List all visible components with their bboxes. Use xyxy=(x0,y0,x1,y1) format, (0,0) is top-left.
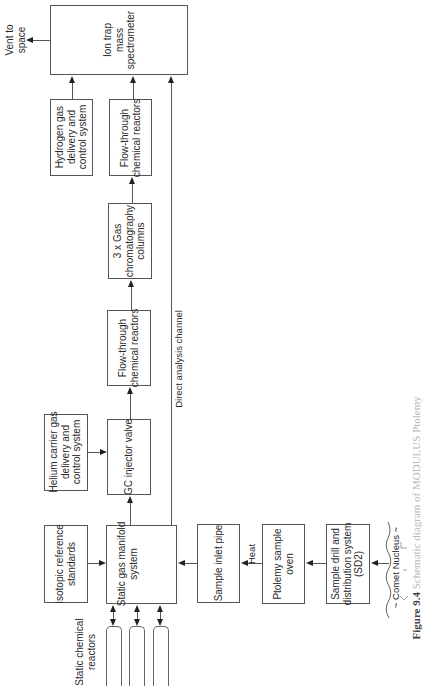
inlet-arrow-icon xyxy=(178,560,185,566)
heat-label: Heat xyxy=(246,542,258,566)
flow2-gc-arrow-icon xyxy=(128,280,134,287)
hydrogen-arrow-icon xyxy=(69,76,75,83)
helium-arrow-icon xyxy=(100,449,107,455)
static-reactor-1 xyxy=(106,626,122,686)
static-reactors-label: Static chemical reactors xyxy=(74,614,98,690)
figure-caption: Figure 9.4 Schematic diagram of MODULUS … xyxy=(411,300,424,640)
gc-flow1-arrow-icon xyxy=(129,177,135,184)
gc-columns-label: 3 x Gas chromatography columns xyxy=(112,196,148,286)
direct-line xyxy=(171,81,172,525)
direct-label: Direct analysis channel xyxy=(173,304,185,414)
drill-line xyxy=(312,563,326,564)
drill-label: Sample drill and distribution system (SD… xyxy=(330,514,366,614)
manifold-label: Static gas manifold system xyxy=(116,519,140,609)
hydrogen-line xyxy=(72,81,73,99)
hydrogen-label: Hydrogen gas delivery and control system xyxy=(54,97,90,177)
flow2-gc-line xyxy=(131,286,132,310)
inlet-line xyxy=(184,563,197,564)
caption-text: Schematic diagram of MODULUS Ptolemy xyxy=(410,396,422,592)
helium-label: Helium carrier gas delivery and control … xyxy=(48,407,84,497)
flow1-line xyxy=(133,81,134,99)
reactor-1-up-arrow-icon xyxy=(110,605,116,612)
isotopic-arrow-icon xyxy=(99,560,106,566)
direct-arrow-icon xyxy=(168,76,174,83)
comet-arrow-icon xyxy=(371,560,378,566)
reactor-2-up-arrow-icon xyxy=(134,605,140,612)
static-reactor-3 xyxy=(153,626,169,686)
injector-flow2-arrow-icon xyxy=(127,387,133,394)
static-reactor-2 xyxy=(129,626,145,686)
flow-through-1-label: Flow-through chemical reactors xyxy=(119,98,143,178)
gc-injector-label: GC injector valve xyxy=(123,412,135,502)
reactor-3-up-arrow-icon xyxy=(157,605,163,612)
manifold-injector-arrow-icon xyxy=(127,496,133,503)
inlet-pipe-label: Sample inlet pipe xyxy=(213,518,225,608)
reactor-2-down-arrow-icon xyxy=(134,619,140,626)
reactor-3-down-arrow-icon xyxy=(157,619,163,626)
injector-flow2-line xyxy=(130,393,131,419)
reactor-1-down-arrow-icon xyxy=(110,619,116,626)
vent-label: Vent to space xyxy=(4,22,28,58)
flow-through-2-label: Flow-through chemical reactors xyxy=(117,308,141,388)
caption-figure-number: Figure 9.4 xyxy=(410,592,422,639)
vent-arrow-icon xyxy=(26,37,33,43)
drill-arrow-icon xyxy=(306,560,313,566)
isotopic-label: Isotopic reference standards xyxy=(54,519,78,609)
vent-line xyxy=(32,40,50,41)
oven-label: Ptolemy sample oven xyxy=(272,519,296,609)
manifold-injector-line xyxy=(130,502,131,525)
gc-flow1-line xyxy=(132,183,133,203)
flow1-arrow-icon xyxy=(130,76,136,83)
ion-trap-label: Ion trap mass spectrometer xyxy=(102,10,136,70)
